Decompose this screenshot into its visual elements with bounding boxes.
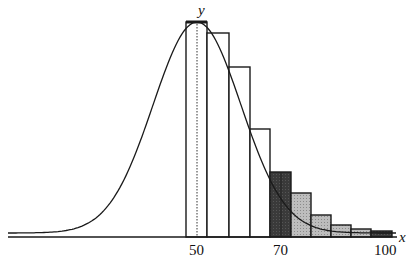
chart-plot xyxy=(0,0,413,263)
x-tick-100: 100 xyxy=(374,242,397,259)
histogram-bars xyxy=(186,22,392,237)
x-axis-label: x xyxy=(399,229,406,246)
bar-10 xyxy=(371,231,392,237)
bar-4 xyxy=(250,129,270,237)
x-tick-50: 50 xyxy=(189,242,204,259)
chart: y x 50 70 100 xyxy=(0,0,413,263)
x-tick-70: 70 xyxy=(273,242,288,259)
bar-3 xyxy=(229,67,250,237)
y-axis-label: y xyxy=(198,2,205,19)
bar-7 xyxy=(311,215,331,237)
